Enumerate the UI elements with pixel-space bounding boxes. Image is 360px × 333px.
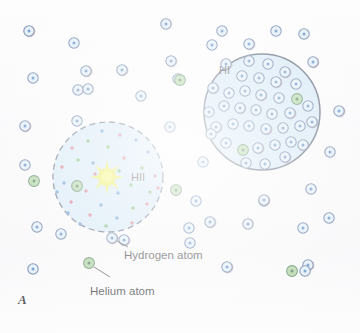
panel-letter: A: [18, 292, 27, 308]
legend-hydrogen-atom: [117, 241, 128, 247]
legend-label-helium-atom: Helium atom: [90, 285, 155, 297]
leader-line: [117, 241, 128, 247]
leader-line: [94, 267, 110, 277]
region-label-hii: HII: [131, 171, 145, 183]
legend-label-hydrogen-atom: Hydrogen atom: [124, 249, 203, 261]
legend-helium-atom: [94, 267, 110, 277]
legend-leader-lines-layer: [0, 0, 360, 333]
figure-panel: HII HI Hydrogen atom Helium atom A: [0, 0, 360, 333]
region-label-hi: HI: [219, 64, 230, 76]
diagram-scene: HII HI Hydrogen atom Helium atom A: [0, 0, 360, 333]
